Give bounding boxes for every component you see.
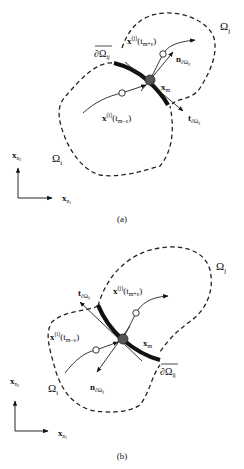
axis-y-label: xn2 (10, 376, 19, 388)
tangent-label: t∂Ωij (188, 113, 200, 125)
omega-j-label: Ωj (216, 260, 226, 275)
caption-b: (b) (117, 451, 128, 461)
axis-y-label: xn2 (12, 150, 21, 162)
point-label: xm (161, 82, 171, 93)
axis-x-label: xn1 (58, 428, 67, 440)
omega-i-label: Ωi (52, 152, 62, 167)
boundary-curve (114, 63, 168, 105)
domain-j-boundary (98, 247, 211, 352)
boundary-label: ∂Ωij (160, 366, 176, 378)
trajectory-i (65, 342, 118, 373)
boundary-label: ∂Ωij (94, 48, 110, 60)
axis-x-label: xn1 (62, 193, 71, 205)
omega-i-label: Ωi (48, 382, 58, 397)
switching-point (145, 75, 155, 85)
point-label: xm (143, 338, 153, 349)
trajectory-j-label: x(j)(tm+ε) (113, 285, 142, 297)
trajectory-i-label: x(i)(tm−ε) (50, 331, 79, 343)
tangent-label: t∂Ωij (78, 288, 90, 300)
switching-point (118, 334, 128, 344)
trajectory-i (83, 85, 146, 113)
caption-a: (a) (117, 214, 127, 224)
trajectory-i-label: x(i)(tm−ε) (102, 112, 131, 124)
trajectory-j-label: x(j)(tm+ε) (127, 35, 156, 47)
trajectory-i-marker (119, 90, 125, 96)
panel-b: Ωj Ωi ∂Ωij x(j)(tm+ε) x(i)(tm−ε) xm n∂Ωi… (10, 247, 226, 461)
figure: Ωj Ωi ∂Ωij x(j)(tm+ε) x(i)(tm−ε) xm n∂Ωi… (0, 0, 244, 469)
trajectory-j (150, 40, 195, 80)
omega-j-label: Ωj (220, 20, 230, 35)
trajectory-j (123, 296, 168, 339)
normal-label: n∂Ωij (90, 382, 104, 394)
panel-a: Ωj Ωi ∂Ωij x(j)(tm+ε) x(i)(tm−ε) xm n∂Ωi… (12, 13, 230, 224)
normal-label: n∂Ωij (176, 54, 190, 66)
boundary-curve (98, 305, 160, 360)
tangent-line (125, 62, 183, 111)
trajectory-j-marker (133, 310, 139, 316)
trajectory-j-marker (160, 51, 166, 57)
domain-i-boundary (48, 306, 160, 412)
trajectory-i-marker (93, 347, 99, 353)
